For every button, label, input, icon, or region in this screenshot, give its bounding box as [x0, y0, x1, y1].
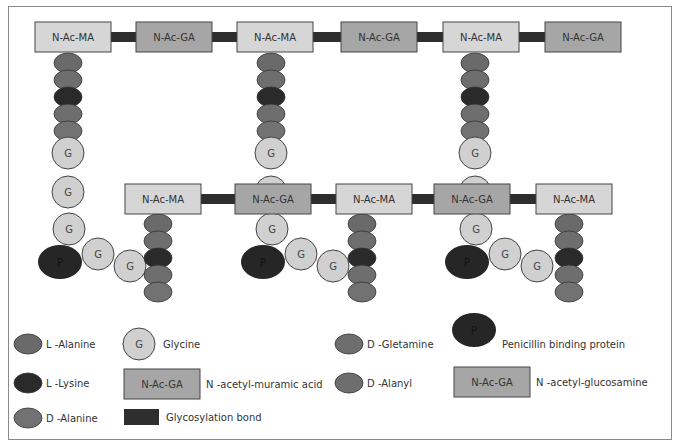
- glycine-label: G: [268, 224, 276, 235]
- ga-box-label: N-Ac-GA: [153, 32, 195, 43]
- bottom-stem: [144, 214, 172, 302]
- ma-box-label: N-Ac-MA: [254, 32, 296, 43]
- ga-box-label: N-Ac-GA: [562, 32, 604, 43]
- glycine: G: [52, 176, 84, 208]
- ma-box-label: N-Ac-MA: [353, 194, 395, 205]
- bottom-chain-box: N-Ac-GA: [434, 184, 510, 214]
- glycine-label: G: [135, 339, 143, 350]
- legend-d-alanine-icon: [14, 408, 42, 428]
- pbp-label: P: [464, 257, 470, 268]
- legend-l-lysine-icon: [14, 373, 42, 393]
- glycine: G: [521, 250, 553, 282]
- glycine-label: G: [94, 249, 102, 260]
- penicillin-binding-protein: P: [445, 245, 489, 279]
- legend-d-gletamine-label: D -Gletamine: [367, 339, 434, 350]
- amino-acid-unit: [555, 282, 583, 302]
- glycine: G: [285, 238, 317, 270]
- pbp-label: P: [57, 257, 63, 268]
- legend-l-lysine-label: L -Lysine: [46, 378, 89, 389]
- ga-box-label: N-Ac-GA: [358, 32, 400, 43]
- glycine-label: G: [64, 187, 72, 198]
- legend-ga-box: N-Ac-GA: [454, 367, 530, 397]
- legend-bond-label: Glycosylation bond: [166, 412, 262, 423]
- penicillin-binding-protein: P: [241, 245, 285, 279]
- bottom-stem: [348, 214, 376, 302]
- glycine: G: [256, 213, 288, 245]
- bottom-chain-box: N-Ac-MA: [536, 184, 612, 214]
- glycine: G: [82, 238, 114, 270]
- legend-pbp-label: Penicillin binding protein: [502, 339, 625, 350]
- penicillin-binding-protein: P: [38, 245, 82, 279]
- legend-d-gletamine-icon: [335, 334, 363, 354]
- ga-box-label: N-Ac-GA: [141, 379, 183, 390]
- ga-box-label: N-Ac-GA: [451, 194, 493, 205]
- top-chain-box: N-Ac-MA: [35, 22, 111, 52]
- ga-box-label: N-Ac-GA: [252, 194, 294, 205]
- legend-ma-label: N -acetyl-muramic acid: [206, 379, 323, 390]
- glycine-label: G: [329, 261, 337, 272]
- glycine-label: G: [126, 261, 134, 272]
- bottom-chain-box: N-Ac-MA: [125, 184, 201, 214]
- top-chain-box: N-Ac-GA: [136, 22, 212, 52]
- glycine-label: G: [501, 249, 509, 260]
- glycine: G: [123, 328, 155, 360]
- top-chain-box: N-Ac-GA: [545, 22, 621, 52]
- glycine: G: [53, 213, 85, 245]
- penicillin-binding-protein: P: [452, 313, 496, 347]
- top-chain-box: N-Ac-MA: [443, 22, 519, 52]
- glycine: G: [255, 137, 287, 169]
- legend-bond-icon: [124, 409, 159, 425]
- pbp-label: P: [260, 257, 266, 268]
- ma-box-label: N-Ac-MA: [52, 32, 94, 43]
- legend-d-alanyl-label: D -Alanyl: [367, 378, 412, 389]
- legend-l-alanine-label: L -Alanine: [46, 339, 96, 350]
- amino-acid-unit: [348, 282, 376, 302]
- legend-ga-label: N -acetyl-glucosamine: [536, 377, 648, 388]
- crosslink-3: GGGGGP: [445, 53, 553, 282]
- top-chain-box: N-Ac-MA: [237, 22, 313, 52]
- glycine-label: G: [65, 224, 73, 235]
- legend-glycine-label: Glycine: [163, 339, 200, 350]
- legend-d-alanine-label: D -Alanine: [46, 413, 98, 424]
- glycine-label: G: [64, 148, 72, 159]
- ga-box-label: N-Ac-GA: [471, 377, 513, 388]
- ma-box-label: N-Ac-MA: [460, 32, 502, 43]
- glycine-label: G: [267, 148, 275, 159]
- glycine: G: [459, 137, 491, 169]
- legend-ma-box: N-Ac-GA: [124, 369, 200, 399]
- crosslink-1: GGGGGP: [38, 53, 146, 282]
- peptidoglycan-diagram: GGGGGPGGGGGPGGGGGP N-Ac-MAN-Ac-GAN-Ac-MA…: [0, 0, 679, 448]
- glycine-label: G: [533, 261, 541, 272]
- glycine: G: [114, 250, 146, 282]
- legend-l-alanine-icon: [14, 334, 42, 354]
- glycine: G: [317, 250, 349, 282]
- bottom-stem: [555, 214, 583, 302]
- pbp-label: P: [471, 325, 477, 336]
- glycine-label: G: [297, 249, 305, 260]
- top-chain-box: N-Ac-GA: [341, 22, 417, 52]
- glycine: G: [460, 213, 492, 245]
- glycine-label: G: [471, 148, 479, 159]
- glycine-label: G: [472, 224, 480, 235]
- bottom-chain-box: N-Ac-MA: [336, 184, 412, 214]
- amino-acid-unit: [144, 282, 172, 302]
- bottom-chain-box: N-Ac-GA: [235, 184, 311, 214]
- crosslink-2: GGGGGP: [241, 53, 349, 282]
- glycine: G: [52, 137, 84, 169]
- ma-box-label: N-Ac-MA: [553, 194, 595, 205]
- legend-d-alanyl-icon: [335, 373, 363, 393]
- glycine: G: [489, 238, 521, 270]
- legend: L -AlanineL -LysineD -AlanineGGlycineN-A…: [14, 313, 648, 428]
- ma-box-label: N-Ac-MA: [142, 194, 184, 205]
